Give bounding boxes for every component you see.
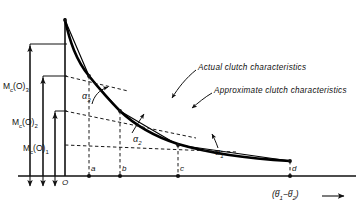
horizontal-dashed-lines [65, 76, 236, 152]
label-alpha1: α1 [215, 148, 223, 159]
tick-label-d: d [292, 165, 296, 173]
tick-label-b: b [122, 165, 126, 173]
dashed-chord-1 [65, 145, 236, 152]
annotation-approximate-clutch-characteristics: Approximate clutch characteristics [214, 87, 347, 95]
axis-lines [18, 18, 356, 176]
label-mc1: Mc(O)1 [23, 144, 49, 155]
label-mc3: Mc(O)3 [3, 82, 29, 93]
tick-label-a: a [91, 165, 95, 173]
tick-dot-a [87, 174, 91, 178]
clutch-characteristics-diagram: Mc(O)3 Mc(O)2 Mc(O)1 α3 α2 α1 Actual clu… [0, 0, 364, 218]
leader-approximate-annotation [192, 93, 212, 108]
label-origin: O [62, 179, 68, 187]
diagram-canvas [0, 0, 364, 218]
tick-dot-d [288, 174, 292, 178]
label-alpha2: α2 [133, 135, 141, 146]
annotation-actual-clutch-characteristics: Actual clutch characteristics [198, 64, 306, 72]
tick-dot-b [118, 174, 122, 178]
x-axis-label: (θ̇1−θ̇2) [272, 190, 299, 201]
dashed-chord-2 [65, 111, 196, 138]
angle-indicators [92, 87, 218, 148]
label-mc2: Mc(O)2 [12, 118, 38, 129]
leader-actual-annotation [172, 70, 196, 98]
tick-dot-c [176, 174, 180, 178]
label-alpha3: α3 [82, 92, 90, 103]
tick-label-c: c [180, 165, 184, 173]
dimension-leaders [30, 44, 67, 111]
annotation-leaders [172, 70, 212, 108]
angle-pointer-alpha1 [212, 134, 218, 148]
dashed-chord-3 [65, 76, 128, 91]
dimension-arrows [30, 44, 55, 186]
